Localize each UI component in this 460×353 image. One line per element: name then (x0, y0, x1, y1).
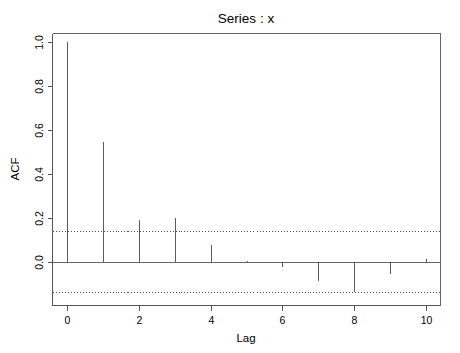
y-axis-title: ACF (9, 158, 21, 181)
y-axis-tick-label: 0.2 (33, 211, 45, 226)
x-axis-tick-label: 2 (137, 314, 143, 326)
x-axis-tick-label: 4 (209, 314, 215, 326)
x-axis-tick-label: 0 (65, 314, 71, 326)
x-axis-tick-label: 10 (421, 314, 433, 326)
x-axis-tick-label: 8 (352, 314, 358, 326)
x-axis-tick-label: 6 (280, 314, 286, 326)
x-axis-title: Lag (236, 332, 255, 344)
y-axis-tick-label: 0.0 (33, 255, 45, 270)
y-axis-tick-label: 0.8 (33, 79, 45, 94)
y-axis-tick-label: 0.6 (33, 123, 45, 138)
y-axis-tick-label: 1.0 (33, 35, 45, 50)
plot-background (0, 0, 460, 353)
page-title: Series : x (218, 11, 275, 26)
acf-plot-container: Series : x ACF Lag 0.00.20.40.60.81.0 02… (0, 0, 460, 353)
y-axis-tick-label: 0.4 (33, 167, 45, 182)
acf-plot-svg: Series : x ACF Lag 0.00.20.40.60.81.0 02… (0, 0, 460, 353)
